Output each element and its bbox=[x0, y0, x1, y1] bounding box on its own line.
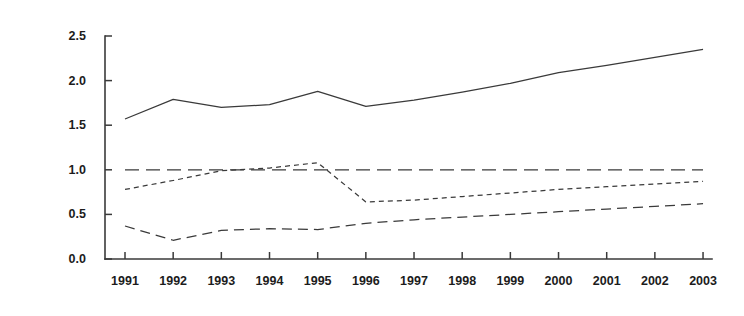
axis-lines bbox=[105, 36, 712, 259]
data-series-group bbox=[125, 49, 703, 240]
x-tick-label: 1994 bbox=[256, 274, 284, 288]
x-tick-label: 1996 bbox=[352, 274, 380, 288]
x-tick-label: 2001 bbox=[593, 274, 621, 288]
data-line-series-1 bbox=[125, 49, 703, 119]
axis-ticks bbox=[105, 36, 703, 259]
x-tick-label: 1995 bbox=[304, 274, 332, 288]
line-chart: 0.00.51.01.52.02.5 199119921993199419951… bbox=[0, 0, 744, 316]
plot-area bbox=[0, 0, 744, 316]
x-tick-label: 2003 bbox=[689, 274, 717, 288]
y-tick-label: 1.5 bbox=[24, 118, 86, 132]
x-tick-label: 2000 bbox=[545, 274, 573, 288]
x-tick-label: 2002 bbox=[641, 274, 669, 288]
x-tick-label: 1993 bbox=[207, 274, 235, 288]
x-tick-label: 1997 bbox=[400, 274, 428, 288]
data-line-series-4 bbox=[125, 204, 703, 241]
y-tick-label: 0.0 bbox=[24, 252, 86, 266]
x-tick-label: 1992 bbox=[159, 274, 187, 288]
x-tick-label: 1998 bbox=[448, 274, 476, 288]
x-tick-label: 1999 bbox=[496, 274, 524, 288]
y-tick-label: 1.0 bbox=[24, 163, 86, 177]
y-tick-label: 0.5 bbox=[24, 207, 86, 221]
y-tick-label: 2.5 bbox=[24, 29, 86, 43]
data-line-series-3 bbox=[125, 163, 703, 202]
y-tick-label: 2.0 bbox=[24, 74, 86, 88]
x-tick-label: 1991 bbox=[111, 274, 139, 288]
